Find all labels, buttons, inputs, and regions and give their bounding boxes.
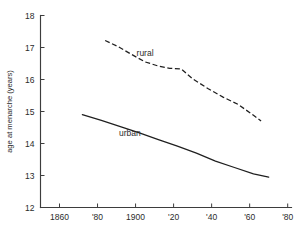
y-axis-title: age at menarche (years) bbox=[5, 70, 14, 153]
y-axis-tick-group bbox=[41, 16, 45, 208]
x-tick-label-1940: '40 bbox=[206, 212, 217, 222]
x-tick-label-1920: '20 bbox=[168, 212, 179, 222]
x-axis-tick-group bbox=[60, 204, 288, 208]
x-tick-label-1980: '80 bbox=[282, 212, 293, 222]
chart-canvas: 12131415161718 1860'801900'20'40'60'80 a… bbox=[0, 0, 298, 241]
y-axis-tick-labels: 12131415161718 bbox=[25, 11, 35, 213]
x-tick-label-1900: 1900 bbox=[126, 212, 145, 222]
y-tick-label-16: 16 bbox=[25, 75, 35, 85]
y-tick-label-18: 18 bbox=[25, 11, 35, 21]
x-tick-label-1860: 1860 bbox=[50, 212, 69, 222]
y-tick-label-13: 13 bbox=[25, 171, 35, 181]
x-tick-label-1880: '80 bbox=[92, 212, 103, 222]
series-line-rural bbox=[105, 40, 261, 121]
series-line-urban bbox=[82, 115, 268, 177]
y-tick-label-15: 15 bbox=[25, 107, 35, 117]
series-label-urban: urban bbox=[119, 128, 141, 138]
x-tick-label-1960: '60 bbox=[244, 212, 255, 222]
x-axis-tick-labels: 1860'801900'20'40'60'80 bbox=[50, 212, 293, 222]
y-tick-label-14: 14 bbox=[25, 139, 35, 149]
y-tick-label-12: 12 bbox=[25, 203, 35, 213]
menarche-age-chart: 12131415161718 1860'801900'20'40'60'80 a… bbox=[0, 0, 298, 241]
series-label-rural: rural bbox=[137, 48, 154, 58]
series-paths bbox=[82, 40, 268, 177]
y-tick-label-17: 17 bbox=[25, 43, 35, 53]
series-annotations: ruralurban bbox=[119, 48, 154, 138]
